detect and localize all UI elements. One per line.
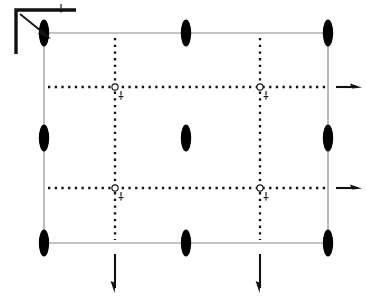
load-arrow-bottom-right: [256, 254, 261, 293]
node-corner-bottom-left: [39, 230, 49, 257]
node-mid-bottom: [181, 230, 191, 257]
load-arrow-bottom-left: [111, 254, 116, 293]
hinge-tick-upper-left: [119, 91, 124, 100]
load-arrow-right-upper: [336, 84, 362, 89]
hinge-tick-lower-left: [119, 192, 124, 201]
hinge-tick-upper-right: [264, 91, 269, 100]
diagram-canvas: [0, 0, 367, 304]
hinge-upper-left: [112, 84, 118, 90]
node-center: [181, 125, 191, 152]
node-mid-right: [323, 125, 333, 152]
node-markers: [39, 20, 333, 257]
hinge-lower-left: [112, 185, 118, 191]
structural-boundary-diagram: [0, 0, 367, 304]
hinge-tick-lower-right: [264, 192, 269, 201]
node-mid-left: [39, 125, 49, 152]
node-corner-top-right: [323, 20, 333, 47]
node-mid-top: [181, 20, 191, 47]
hinge-upper-right: [257, 84, 263, 90]
node-corner-bottom-right: [323, 230, 333, 257]
hinge-lower-right: [257, 185, 263, 191]
load-arrow-right-lower: [336, 185, 362, 190]
